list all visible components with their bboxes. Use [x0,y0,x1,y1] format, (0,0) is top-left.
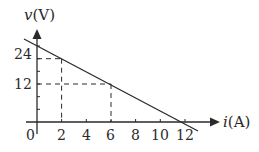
y-tick-label-12: 12 [14,76,32,92]
dashed-guides [37,59,111,122]
x-axis-label: i(A) [223,113,250,131]
x-tick-label-8: 8 [131,127,140,143]
y-tick-label-24: 24 [14,46,32,62]
x-tick-label-10: 10 [151,127,169,143]
x-tick-label-4: 4 [82,127,91,143]
x-axis-arrow-icon [210,118,220,127]
x-tick-label-6: 6 [106,127,115,143]
y-axis-arrow-icon [33,29,42,39]
x-tick-label-2: 2 [57,127,66,143]
vi-line [24,39,198,131]
vi-graph: v(V) i(A) 24 12 0 2 4 6 8 10 12 [0,0,259,152]
x-tick-label-12: 12 [176,127,194,143]
origin-label: 0 [26,127,35,143]
y-axis-label: v(V) [24,6,55,24]
